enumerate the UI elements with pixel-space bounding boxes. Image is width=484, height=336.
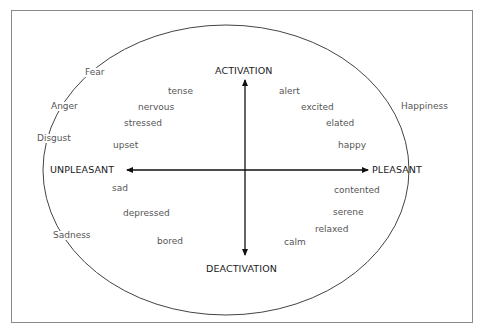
axis-label-activation: ACTIVATION [215,66,272,76]
word-relaxed: relaxed [315,225,348,234]
word-sad: sad [112,184,128,193]
word-nervous: nervous [138,103,174,112]
word-happy: happy [338,141,366,150]
word-contented: contented [334,186,380,195]
emotion-anger: Anger [50,102,79,111]
word-serene: serene [333,208,364,217]
word-bored: bored [157,237,183,246]
axis-label-unpleasant: UNPLEASANT [50,165,114,175]
axis-label-deactivation: DEACTIVATION [206,264,277,274]
emotion-disgust: Disgust [36,134,72,143]
axis-label-pleasant: PLEASANT [372,165,422,175]
word-alert: alert [279,87,300,96]
word-calm: calm [284,238,306,247]
word-tense: tense [168,87,193,96]
emotion-fear: Fear [84,68,105,77]
word-depressed: depressed [123,209,170,218]
word-excited: excited [301,103,334,112]
emotion-sadness: Sadness [52,231,92,240]
word-stressed: stressed [124,119,162,128]
word-elated: elated [326,119,354,128]
word-upset: upset [113,141,138,150]
emotion-happiness: Happiness [400,102,449,111]
